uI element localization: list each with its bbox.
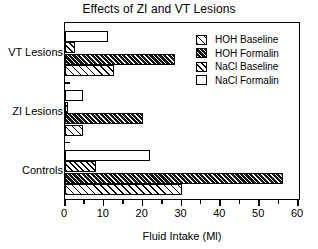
x-axis-minor-tick	[161, 200, 163, 204]
bar-controls-nacl-baseline	[65, 161, 96, 172]
bar-zi-lesions-hoh-baseline	[65, 125, 83, 136]
legend-item: NaCl Formalin	[196, 74, 279, 88]
x-axis-tick	[258, 200, 260, 206]
legend-swatch-icon	[196, 75, 207, 85]
y-category-label: VT Lesions	[1, 46, 63, 58]
bar-zi-lesions-hoh-formalin	[65, 113, 143, 124]
legend-swatch-icon	[196, 48, 207, 58]
legend-label: HOH Formalin	[215, 48, 279, 59]
x-axis-minor-tick	[122, 200, 124, 204]
x-axis-tick	[219, 200, 221, 206]
legend-item: HOH Formalin	[196, 47, 279, 61]
x-axis-tick	[103, 200, 105, 206]
x-axis-title: Fluid Intake (Ml)	[64, 230, 300, 242]
x-axis-tick	[142, 200, 144, 206]
legend-swatch-icon	[196, 35, 207, 45]
x-axis: 0102030405060	[64, 200, 300, 226]
x-axis-tick-label: 20	[127, 207, 157, 219]
x-axis-minor-tick	[278, 200, 280, 204]
x-axis-tick-label: 50	[243, 207, 273, 219]
x-axis-tick-label: 30	[166, 207, 196, 219]
bar-vt-lesions-nacl-baseline	[65, 42, 75, 53]
x-axis-tick-label: 10	[88, 207, 118, 219]
bar-zi-lesions-nacl-formalin	[65, 90, 83, 101]
x-axis-tick-label: 40	[204, 207, 234, 219]
y-category-label: ZI Lesions	[1, 105, 63, 117]
x-axis-tick-label: 60	[282, 207, 312, 219]
y-axis-group-tick	[65, 142, 70, 144]
legend-label: NaCl Baseline	[215, 61, 278, 72]
bar-controls-nacl-formalin	[65, 150, 150, 161]
x-axis-minor-tick	[239, 200, 241, 204]
bar-zi-lesions-nacl-baseline	[65, 102, 68, 113]
chart-legend: HOH BaselineHOH FormalinNaCl BaselineNaC…	[196, 33, 279, 87]
figure: Effects of ZI and VT Lesions VT LesionsZ…	[0, 0, 318, 249]
x-axis-tick	[64, 200, 66, 206]
x-axis-tick	[297, 200, 299, 206]
chart-title: Effects of ZI and VT Lesions	[0, 2, 318, 16]
bar-vt-lesions-hoh-baseline	[65, 65, 114, 76]
x-axis-minor-tick	[83, 200, 85, 204]
legend-label: NaCl Formalin	[215, 75, 279, 86]
bar-controls-hoh-baseline	[65, 184, 182, 195]
bar-vt-lesions-nacl-formalin	[65, 31, 108, 42]
bar-controls-hoh-formalin	[65, 173, 283, 184]
x-axis-tick	[181, 200, 183, 206]
legend-item: NaCl Baseline	[196, 60, 279, 74]
y-category-label: Controls	[1, 164, 63, 176]
x-axis-tick-label: 0	[49, 207, 79, 219]
legend-label: HOH Baseline	[215, 34, 278, 45]
x-axis-minor-tick	[200, 200, 202, 204]
legend-item: HOH Baseline	[196, 33, 279, 47]
y-axis-group-tick	[65, 82, 70, 84]
legend-swatch-icon	[196, 62, 207, 72]
bar-vt-lesions-hoh-formalin	[65, 54, 175, 65]
